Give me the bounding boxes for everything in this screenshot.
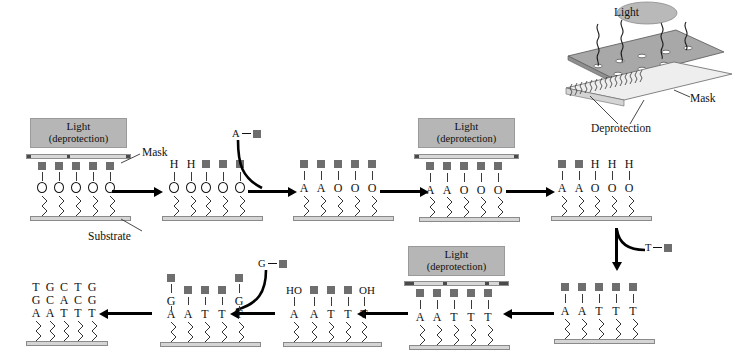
base-letter: O	[589, 182, 601, 194]
base-letter: A	[165, 308, 177, 320]
inset-light-label: Light	[614, 6, 639, 18]
top-label-H: H	[185, 158, 197, 170]
inset-3d-diagram: Light Mask Deprotection	[556, 0, 735, 140]
base-letter: A	[573, 182, 585, 194]
protecting-group-square	[167, 274, 175, 282]
base-letter: T	[358, 308, 370, 320]
protecting-group-square	[327, 286, 335, 294]
mask-label-1: Mask	[142, 146, 168, 158]
top-label-H: H	[168, 158, 180, 170]
linker-squiggles	[28, 320, 118, 342]
reagent-a-curve	[230, 138, 270, 194]
mask-bar-2	[414, 154, 519, 159]
linker-squiggles	[294, 195, 394, 217]
reagent-t-curve	[605, 228, 653, 256]
oxygen-circle	[186, 182, 196, 193]
substrate-bar	[554, 339, 655, 344]
substrate-label: Substrate	[88, 230, 131, 242]
base-letter: T	[342, 308, 354, 320]
substrate-bar	[409, 345, 510, 350]
base-letter: T	[199, 308, 211, 320]
mask-leader-1	[120, 152, 142, 166]
inset-deprotection-label: Deprotection	[591, 122, 651, 134]
protecting-group-square	[575, 160, 583, 168]
protecting-group-square	[72, 162, 80, 170]
base-letter: A	[288, 308, 300, 320]
base-letter: A	[315, 182, 327, 194]
base-letter: T	[610, 305, 622, 317]
substrate-bar	[293, 216, 394, 221]
base-letter: O	[606, 182, 618, 194]
protecting-group-square	[334, 160, 342, 168]
base-letter: T	[86, 307, 98, 319]
base-letter: A	[441, 184, 453, 196]
base-letter: O	[332, 182, 344, 194]
base-letter: A	[559, 305, 571, 317]
light-box-1-line1: Light	[31, 121, 126, 133]
protecting-group-square	[235, 274, 243, 282]
light-box-2-line2: (deprotection)	[419, 133, 514, 144]
light-box-2-line1: Light	[419, 121, 514, 133]
top-label-H: H	[623, 158, 635, 170]
base-letter: A	[431, 311, 443, 323]
mask-bar-3	[404, 281, 509, 286]
oxygen-circle	[169, 182, 179, 193]
base-letter: A	[576, 305, 588, 317]
protecting-group-square	[595, 283, 603, 291]
substrate-bar	[551, 216, 652, 221]
protecting-group-square	[300, 160, 308, 168]
mask-leader-line	[674, 90, 690, 97]
protecting-group-square	[426, 162, 434, 170]
oxygen-circle	[88, 182, 98, 193]
oxygen-circle	[37, 182, 47, 193]
base-letter: O	[492, 184, 504, 196]
substrate-bar	[160, 342, 261, 347]
protecting-group-square	[629, 283, 637, 291]
base-letter: T	[627, 305, 639, 317]
linker-squiggles	[284, 321, 384, 343]
substrate-bar	[162, 216, 263, 221]
protecting-group-square	[106, 162, 114, 170]
reagent-t-square	[664, 244, 672, 252]
base-letter: A	[44, 307, 56, 319]
light-box-3-line2: (deprotection)	[409, 261, 504, 272]
protecting-group-square	[317, 160, 325, 168]
base-letter: A	[556, 182, 568, 194]
protecting-group-square	[38, 162, 46, 170]
protecting-group-square	[310, 286, 318, 294]
protecting-group-square	[433, 289, 441, 297]
protecting-group-square	[561, 283, 569, 291]
reagent-g-square	[279, 260, 287, 268]
top-label-H: H	[589, 158, 601, 170]
hydroxyl-label-left: HO	[286, 285, 302, 296]
base-letter: C	[44, 294, 56, 306]
base-letter: T	[448, 311, 460, 323]
base-letter: G	[30, 294, 42, 306]
light-box-1-line2: (deprotection)	[31, 133, 126, 144]
base-letter: O	[366, 182, 378, 194]
protecting-group-square	[201, 286, 209, 294]
linker-squiggles	[555, 318, 655, 340]
linker-squiggles	[161, 321, 261, 343]
protecting-group-square	[460, 162, 468, 170]
deprotection-leader-2	[630, 100, 644, 124]
reagent-a-square	[253, 130, 261, 138]
base-letter: O	[475, 184, 487, 196]
substrate-bar	[30, 216, 131, 221]
protecting-group-square	[344, 286, 352, 294]
base-letter: T	[58, 307, 70, 319]
protecting-group-square	[351, 160, 359, 168]
base-letter: C	[58, 281, 70, 293]
inset-svg	[556, 0, 735, 140]
oxygen-circle	[201, 182, 211, 193]
base-letter: A	[58, 294, 70, 306]
protecting-group-square	[578, 283, 586, 291]
base-letter: T	[72, 307, 84, 319]
oxygen-circle	[71, 182, 81, 193]
protecting-group-square	[202, 160, 210, 168]
light-box-2: Light (deprotection)	[418, 118, 515, 148]
top-label-H: H	[606, 158, 618, 170]
base-letter: O	[349, 182, 361, 194]
protecting-group-square	[484, 289, 492, 297]
protecting-group-square	[558, 160, 566, 168]
